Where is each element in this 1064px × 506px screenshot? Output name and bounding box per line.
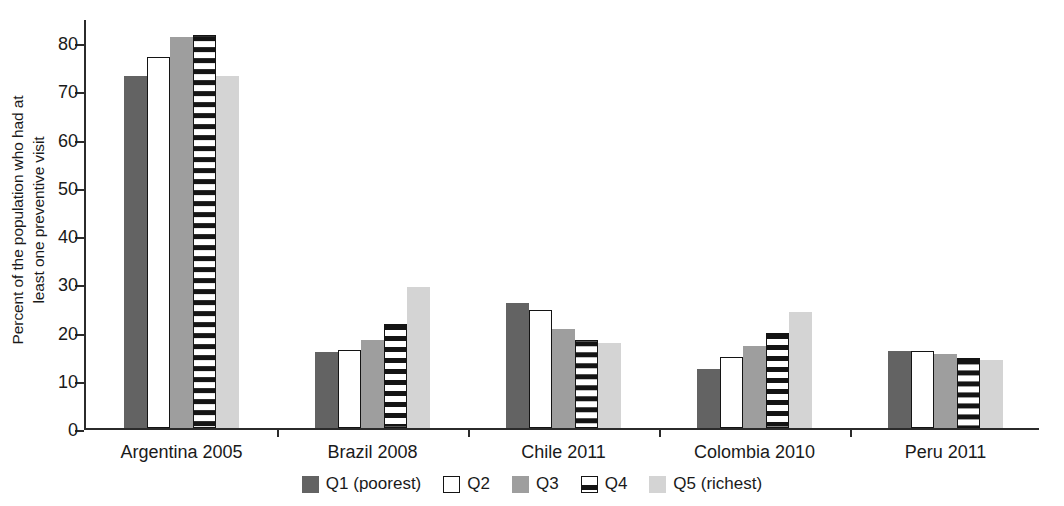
plot-area: 01020304050607080 Argentina 2005Brazil 2… bbox=[84, 20, 1039, 430]
bar-q5 bbox=[598, 343, 621, 428]
bar-q4 bbox=[193, 35, 216, 428]
bar-q5 bbox=[407, 287, 430, 428]
bar-group: Peru 2011 bbox=[850, 20, 1041, 428]
y-axis-title-line-2: least one preventive visit bbox=[28, 96, 49, 345]
legend-label-q4: Q4 bbox=[605, 474, 628, 494]
y-tick-label: 0 bbox=[68, 420, 78, 441]
y-tick-label: 40 bbox=[58, 227, 78, 248]
y-tick-label: 60 bbox=[58, 130, 78, 151]
bar-groups: Argentina 2005Brazil 2008Chile 2011Colom… bbox=[86, 20, 1039, 428]
legend-item-q1: Q1 (poorest) bbox=[302, 474, 421, 494]
x-axis-line bbox=[84, 428, 1039, 430]
bar-q3 bbox=[934, 354, 957, 428]
y-axis-title: Percent of the population who had at lea… bbox=[0, 0, 56, 440]
bar-q4 bbox=[575, 340, 598, 428]
y-tick-label: 30 bbox=[58, 275, 78, 296]
bar-q2 bbox=[338, 350, 361, 428]
bar-q1 bbox=[124, 76, 147, 428]
bar-q1 bbox=[697, 369, 720, 428]
bar-q3 bbox=[170, 37, 193, 428]
bar-group: Brazil 2008 bbox=[277, 20, 468, 428]
y-tick-label: 70 bbox=[58, 82, 78, 103]
bar-group-bars bbox=[277, 20, 468, 428]
x-axis-category-label: Brazil 2008 bbox=[327, 442, 417, 463]
bar-q2 bbox=[720, 357, 743, 428]
x-axis-category-label: Argentina 2005 bbox=[120, 442, 242, 463]
legend-label-q2: Q2 bbox=[467, 474, 490, 494]
x-tick-mark bbox=[850, 428, 852, 437]
legend-item-q4: Q4 bbox=[581, 474, 628, 494]
bar-q2 bbox=[529, 310, 552, 428]
bar-group-bars bbox=[850, 20, 1041, 428]
legend-label-q1: Q1 (poorest) bbox=[326, 474, 421, 494]
x-tick-mark bbox=[659, 428, 661, 437]
chart-legend: Q1 (poorest)Q2Q3Q4Q5 (richest) bbox=[0, 474, 1064, 494]
bar-q5 bbox=[789, 312, 812, 428]
y-tick-label: 80 bbox=[58, 34, 78, 55]
bar-group-bars bbox=[86, 20, 277, 428]
x-tick-mark bbox=[277, 428, 279, 437]
legend-swatch-q1 bbox=[302, 476, 319, 493]
legend-swatch-q4 bbox=[581, 476, 598, 493]
bar-q3 bbox=[552, 329, 575, 428]
legend-item-q3: Q3 bbox=[512, 474, 559, 494]
y-axis-title-line-1: Percent of the population who had at bbox=[7, 96, 28, 345]
legend-item-q5: Q5 (richest) bbox=[649, 474, 762, 494]
bar-group: Chile 2011 bbox=[468, 20, 659, 428]
x-axis-category-label: Colombia 2010 bbox=[694, 442, 815, 463]
y-tick-label: 50 bbox=[58, 178, 78, 199]
y-tick-label: 10 bbox=[58, 371, 78, 392]
preventive-visit-bar-chart: Percent of the population who had at lea… bbox=[0, 0, 1064, 506]
bar-q1 bbox=[506, 303, 529, 428]
bar-q4 bbox=[766, 333, 789, 428]
legend-swatch-q2 bbox=[443, 476, 460, 493]
legend-label-q3: Q3 bbox=[536, 474, 559, 494]
legend-label-q5: Q5 (richest) bbox=[673, 474, 762, 494]
bar-q4 bbox=[957, 358, 980, 428]
legend-swatch-q5 bbox=[649, 476, 666, 493]
bar-group-bars bbox=[468, 20, 659, 428]
legend-item-q2: Q2 bbox=[443, 474, 490, 494]
bar-q3 bbox=[743, 346, 766, 428]
x-tick-mark bbox=[468, 428, 470, 437]
bar-q4 bbox=[384, 324, 407, 428]
bar-group-bars bbox=[659, 20, 850, 428]
legend-swatch-q3 bbox=[512, 476, 529, 493]
bar-group: Colombia 2010 bbox=[659, 20, 850, 428]
bar-q1 bbox=[888, 351, 911, 428]
bar-q1 bbox=[315, 352, 338, 428]
bar-q5 bbox=[980, 360, 1003, 428]
bar-q3 bbox=[361, 340, 384, 428]
bar-q2 bbox=[147, 57, 170, 428]
bar-group: Argentina 2005 bbox=[86, 20, 277, 428]
x-axis-category-label: Peru 2011 bbox=[905, 442, 987, 463]
x-axis-category-label: Chile 2011 bbox=[521, 442, 606, 463]
bar-q5 bbox=[216, 76, 239, 428]
y-tick-label: 20 bbox=[58, 323, 78, 344]
bar-q2 bbox=[911, 351, 934, 428]
